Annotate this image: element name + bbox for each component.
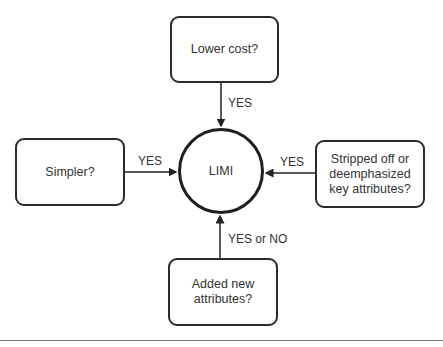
center-label: LIMI <box>209 164 233 178</box>
node-simpler: Simpler? <box>15 138 125 206</box>
bottom-divider <box>0 340 443 341</box>
node-label: Simpler? <box>45 165 94 180</box>
node-added-attributes: Added new attributes? <box>168 258 278 326</box>
node-lower-cost: Lower cost? <box>170 16 279 83</box>
node-label: Lower cost? <box>191 42 258 57</box>
edge-label-right: YES <box>280 155 304 169</box>
center-node-limi: LIMI <box>178 128 264 214</box>
node-stripped-off: Stripped off or deemphasized key attribu… <box>315 140 425 208</box>
edge-label-bottom: YES or NO <box>228 232 287 246</box>
edge-label-top: YES <box>228 96 252 110</box>
node-label: Added new attributes? <box>184 277 262 307</box>
node-label: Stripped off or deemphasized key attribu… <box>323 152 417 197</box>
edge-label-left: YES <box>138 154 162 168</box>
